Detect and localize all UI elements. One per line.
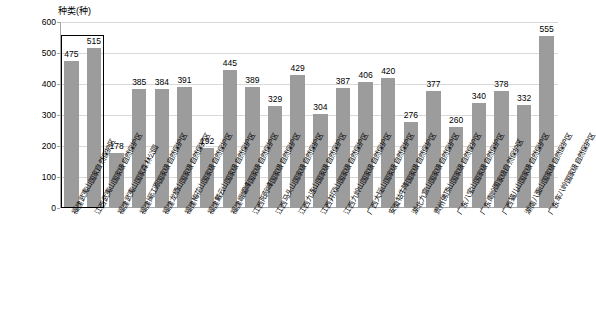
bar-value-label: 555 bbox=[524, 24, 570, 34]
y-tick-label: 100 bbox=[42, 172, 56, 182]
highlight-box bbox=[61, 35, 104, 208]
y-tick-label: 0 bbox=[51, 203, 56, 213]
y-axis-title: 种类(种) bbox=[58, 4, 91, 17]
y-tick-label: 600 bbox=[42, 17, 56, 27]
y-tick-label: 200 bbox=[42, 141, 56, 151]
y-tick-label: 300 bbox=[42, 110, 56, 120]
y-tick-label: 400 bbox=[42, 79, 56, 89]
x-axis-labels: 福建武夷山国家自然保护区江西武夷山国家级自然保护区福建武夷山国家森林公园福建闽江… bbox=[60, 210, 558, 334]
